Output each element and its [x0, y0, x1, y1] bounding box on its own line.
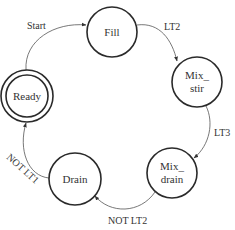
label-lt3: LT3: [214, 127, 230, 138]
transition-not-lt2: NOT LT2: [95, 192, 155, 226]
transition-not-lt1: NOT LT1: [5, 123, 49, 186]
transition-lt3: LT3: [194, 106, 230, 158]
label-not-lt2: NOT LT2: [108, 215, 147, 226]
transition-lt2: LT2: [137, 21, 180, 61]
state-mix-drain-label-line1: Mix_: [160, 160, 184, 172]
state-mix-drain-label-line2: drain: [161, 173, 184, 185]
state-ready[interactable]: Ready: [1, 70, 53, 122]
state-mix-stir-label-line1: Mix_: [185, 69, 209, 81]
state-diagram: Start LT2 LT3 NOT LT2 NOT LT1 Ready Fill…: [0, 0, 235, 230]
transition-start: Start: [26, 20, 86, 70]
state-mix-stir-label-line2: stir: [190, 82, 204, 94]
state-mix-stir[interactable]: Mix_ stir: [172, 57, 222, 107]
state-fill[interactable]: Fill: [87, 7, 137, 57]
arrow-start: [26, 25, 86, 70]
state-fill-label: Fill: [104, 26, 119, 38]
state-drain-label: Drain: [62, 173, 88, 185]
state-drain[interactable]: Drain: [49, 153, 101, 205]
label-lt2: LT2: [164, 21, 180, 32]
arrow-lt3: [194, 106, 210, 158]
state-mix-drain[interactable]: Mix_ drain: [147, 148, 197, 198]
label-start: Start: [27, 20, 46, 31]
state-ready-label: Ready: [13, 90, 42, 102]
arrow-not-lt2: [95, 192, 155, 209]
label-not-lt1: NOT LT1: [5, 151, 41, 185]
